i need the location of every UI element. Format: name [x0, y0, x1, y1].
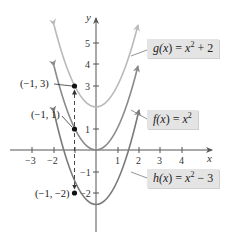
- point-neg1-3: [72, 83, 77, 88]
- h-suffix: − 3: [194, 171, 213, 185]
- point-neg1-1: [72, 126, 77, 131]
- f-exp: 2: [188, 111, 192, 120]
- x-tick-label: −2: [47, 155, 58, 166]
- y-axis-label: y: [85, 11, 91, 23]
- x-tick-label: 1: [115, 155, 120, 166]
- h-mid: ) =: [168, 171, 185, 185]
- g-suffix: + 2: [194, 41, 213, 55]
- y-axis: 5 4 3 1 −1 −2 y: [80, 11, 99, 232]
- x-tick-label: −3: [25, 155, 36, 166]
- y-tick-label: 4: [85, 59, 90, 70]
- label-g-function: g(x) = x2 + 2: [147, 39, 219, 58]
- point-label-neg1-3: (−1, 3): [20, 78, 49, 90]
- x-tick-label: 3: [157, 155, 162, 166]
- x-tick-label: 2: [136, 155, 141, 166]
- y-tick-label: −1: [80, 167, 91, 178]
- y-tick-label: 3: [85, 81, 90, 92]
- x-axis: −3 −2 1 2 3 4 x: [10, 147, 212, 166]
- f-mid: ) =: [166, 112, 183, 126]
- h-prefix: h(: [153, 171, 163, 185]
- point-label-neg1-1: (−1, 1): [31, 109, 60, 121]
- g-prefix: g(: [153, 41, 163, 55]
- g-mid: ) =: [168, 41, 185, 55]
- y-tick-label: 1: [85, 124, 90, 135]
- x-tick-label: 4: [179, 155, 184, 166]
- point-label-neg1-neg2: (−1, −2): [35, 188, 70, 200]
- point-neg1-neg2: [72, 190, 77, 195]
- x-axis-label: x: [206, 152, 212, 164]
- label-f-function: f(x) = x2: [147, 110, 198, 129]
- y-tick-label: 5: [85, 38, 90, 49]
- label-h-function: h(x) = x2 − 3: [147, 169, 219, 188]
